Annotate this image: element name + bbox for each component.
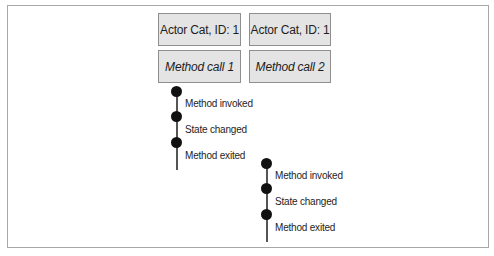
timeline-1-event-1: Method invoked [185, 98, 253, 109]
timeline-2-line [266, 162, 268, 242]
actor-box-2: Actor Cat, ID: 1 [249, 13, 331, 46]
event-dot-icon [171, 137, 182, 148]
timeline-1-event-2: State changed [185, 124, 247, 135]
event-dot-icon [261, 183, 272, 194]
timeline-2-event-3: Method exited [275, 222, 335, 233]
timeline-2-event-1: Method invoked [275, 170, 343, 181]
method-label: Method call 2 [256, 60, 325, 74]
diagram-frame [7, 5, 489, 248]
actor-label: Actor Cat, ID: 1 [251, 23, 330, 37]
event-dot-icon [261, 209, 272, 220]
event-dot-icon [261, 158, 272, 169]
timeline-1-line [176, 90, 178, 170]
method-call-box-2: Method call 2 [249, 50, 331, 83]
method-label: Method call 1 [165, 60, 234, 74]
event-dot-icon [171, 111, 182, 122]
timeline-1-event-3: Method exited [185, 150, 245, 161]
method-call-box-1: Method call 1 [158, 50, 241, 83]
actor-box-1: Actor Cat, ID: 1 [158, 13, 241, 46]
actor-label: Actor Cat, ID: 1 [160, 23, 239, 37]
event-dot-icon [171, 86, 182, 97]
timeline-2-event-2: State changed [275, 196, 337, 207]
